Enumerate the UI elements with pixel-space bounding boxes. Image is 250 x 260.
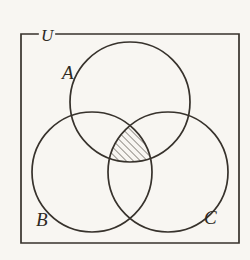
set-label-b: B	[36, 209, 48, 230]
universe-label: U	[41, 26, 55, 45]
set-label-c: C	[204, 207, 217, 228]
set-circle-b	[32, 112, 152, 232]
venn-diagram-figure: · · · · · ·	[0, 0, 250, 260]
set-label-a: A	[60, 62, 74, 83]
venn-diagram-canvas: U A B C	[0, 0, 250, 260]
clipped-heading-text: · · · · · ·	[14, 0, 236, 6]
